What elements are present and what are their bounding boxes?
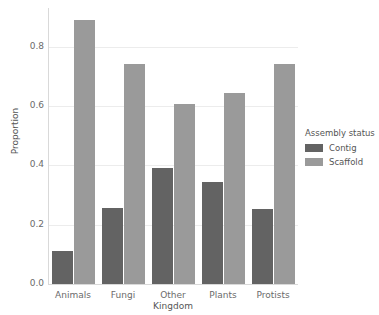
x-axis-label: Kingdom bbox=[48, 301, 298, 311]
bar-group bbox=[48, 8, 98, 284]
bar-group bbox=[148, 8, 198, 284]
plot-inner bbox=[48, 8, 298, 285]
legend-swatch-icon bbox=[305, 144, 323, 152]
y-tick-label: 0.8 bbox=[18, 42, 44, 51]
legend: Assembly status ContigScaffold bbox=[305, 128, 379, 171]
legend-title: Assembly status bbox=[305, 128, 379, 138]
bar bbox=[202, 182, 223, 284]
bar bbox=[52, 251, 73, 284]
y-tick-label: 0.0 bbox=[18, 279, 44, 288]
legend-item-label: Contig bbox=[329, 143, 357, 153]
plot-area bbox=[48, 8, 298, 285]
legend-item[interactable]: Contig bbox=[305, 143, 379, 153]
x-tick-label: Protists bbox=[238, 290, 308, 300]
bar bbox=[152, 168, 173, 284]
bar-group bbox=[248, 8, 298, 284]
y-axis-tick-labels: 0.0 0.2 0.4 0.6 0.8 bbox=[14, 0, 44, 315]
y-tick-label: 0.6 bbox=[18, 101, 44, 110]
bar bbox=[74, 20, 95, 284]
bar-group bbox=[98, 8, 148, 284]
y-tick-label: 0.2 bbox=[18, 220, 44, 229]
legend-item-label: Scaffold bbox=[329, 157, 363, 167]
bar bbox=[102, 208, 123, 284]
legend-item[interactable]: Scaffold bbox=[305, 157, 379, 167]
y-tick-label: 0.4 bbox=[18, 160, 44, 169]
legend-swatch-icon bbox=[305, 158, 323, 166]
bar bbox=[174, 104, 195, 284]
legend-entries: ContigScaffold bbox=[305, 143, 379, 167]
x-axis-line bbox=[48, 284, 298, 285]
bar-group bbox=[198, 8, 248, 284]
bar bbox=[274, 64, 295, 284]
bar bbox=[124, 64, 145, 284]
bar-chart-figure: Proportion 0.0 0.2 0.4 0.6 0.8 AnimalsFu… bbox=[0, 0, 379, 315]
bar bbox=[252, 209, 273, 284]
bar bbox=[224, 93, 245, 284]
